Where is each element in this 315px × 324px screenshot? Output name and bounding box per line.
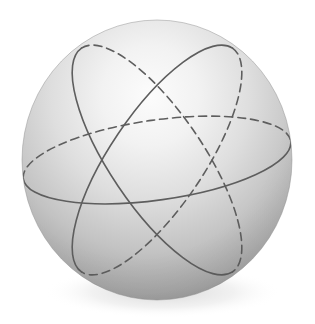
sphere-illustration: [0, 0, 315, 324]
figure-root: [0, 0, 315, 324]
sphere-rim-shade: [22, 20, 292, 300]
